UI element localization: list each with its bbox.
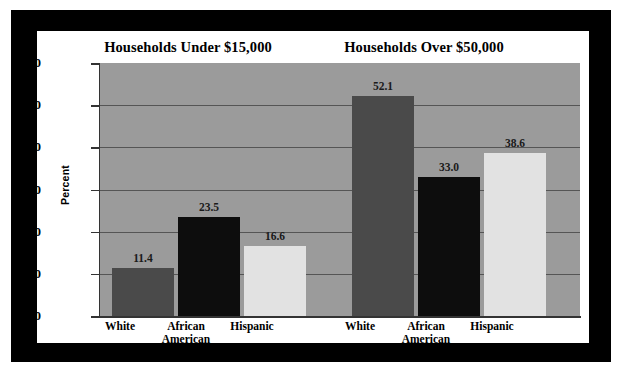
y-tick-label: 20 bbox=[1, 225, 41, 238]
bar-value-label: 23.5 bbox=[168, 201, 250, 213]
y-tick-label: 30 bbox=[1, 183, 41, 196]
y-axis-label: Percent bbox=[59, 145, 71, 225]
bar-value-label: 11.4 bbox=[102, 252, 184, 264]
panel-title-right: Households Over $50,000 bbox=[309, 39, 539, 56]
y-tick-label: 0 bbox=[1, 309, 41, 322]
y-tick-label: 10 bbox=[1, 267, 41, 280]
bar bbox=[484, 153, 546, 316]
x-category-label: Hispanic bbox=[452, 320, 532, 333]
x-category-label: Hispanic bbox=[212, 320, 292, 333]
chart-frame-border: Households Under $15,000 Households Over… bbox=[11, 10, 611, 362]
y-tick-label: 60 bbox=[1, 56, 41, 69]
bar-value-label: 16.6 bbox=[234, 230, 316, 242]
bar-value-label: 52.1 bbox=[342, 80, 424, 92]
bar bbox=[418, 177, 480, 316]
figure-root: Households Under $15,000 Households Over… bbox=[0, 0, 622, 370]
bar bbox=[244, 246, 306, 316]
bar-value-label: 33.0 bbox=[408, 161, 490, 173]
bar-value-label: 38.6 bbox=[474, 137, 556, 149]
plot-area: 11.423.516.652.133.038.6 bbox=[99, 63, 580, 316]
x-axis-line bbox=[99, 316, 581, 318]
panel-title-left: Households Under $15,000 bbox=[73, 39, 303, 56]
bar bbox=[112, 268, 174, 316]
y-tick-label: 50 bbox=[1, 98, 41, 111]
gridline bbox=[100, 105, 580, 106]
bar bbox=[178, 217, 240, 316]
chart-panel: Households Under $15,000 Households Over… bbox=[37, 31, 589, 343]
y-tick-label: 40 bbox=[1, 140, 41, 153]
bar bbox=[352, 96, 414, 316]
